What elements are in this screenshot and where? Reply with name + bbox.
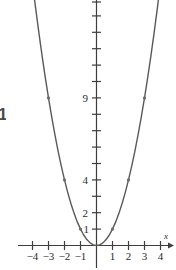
x-tick-labels: −4 −3 −2 −1 1 2 3 4 [27, 250, 164, 262]
data-point [127, 178, 130, 181]
y-tick-label-9: 9 [83, 92, 89, 104]
y-tick-label-4: 4 [83, 174, 89, 186]
parabola-plot: −4 −3 −2 −1 1 2 3 4 1 2 4 9 x [0, 0, 176, 270]
data-point [63, 178, 66, 181]
axes-group [18, 0, 174, 268]
y-tick-label-2: 2 [83, 207, 89, 219]
x-axis-arrowhead [168, 243, 174, 249]
data-point [143, 96, 146, 99]
x-tick-label-1: 1 [110, 250, 116, 262]
y-tick-labels: 1 2 4 9 [83, 92, 90, 235]
data-point [47, 96, 50, 99]
x-tick-label--2: −2 [59, 250, 71, 262]
x-tick-label--1: −1 [75, 250, 87, 262]
x-axis-label: x [163, 231, 168, 241]
data-point [111, 228, 114, 231]
data-point [79, 228, 82, 231]
y-tick-label-1: 1 [84, 223, 90, 235]
x-tick-label-4: 4 [158, 250, 164, 262]
x-tick-label--3: −3 [43, 250, 55, 262]
x-tick-label-2: 2 [126, 250, 132, 262]
figure-container: 1 [0, 0, 176, 270]
x-tick-label-3: 3 [142, 250, 148, 262]
x-tick-label--4: −4 [27, 250, 39, 262]
